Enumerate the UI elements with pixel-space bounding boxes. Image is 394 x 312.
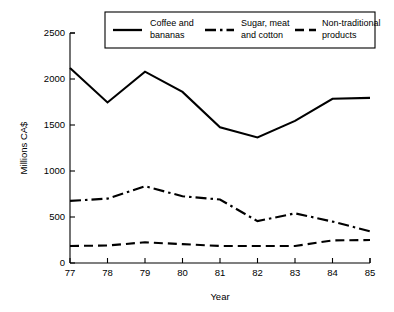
line-chart: 0 500 1000 1500 2000 2500 77 78 79 80 81… [0, 0, 394, 312]
x-tick-label-77: 77 [65, 267, 76, 278]
chart-figure: 0 500 1000 1500 2000 2500 77 78 79 80 81… [0, 0, 394, 312]
y-tick-labels: 0 500 1000 1500 2000 2500 [44, 27, 65, 268]
series-line-non-traditional-products [70, 240, 370, 246]
legend-label-coffee-and-bananas-line1: Coffee and [150, 18, 194, 28]
legend: Coffee and bananas Sugar, meat and cotto… [105, 12, 381, 48]
x-axis-title: Year [210, 291, 229, 302]
x-tick-label-84: 84 [327, 267, 338, 278]
x-tick-label-82: 82 [252, 267, 263, 278]
series-line-coffee-and-bananas [70, 68, 370, 137]
legend-label-sugar-meat-and-cotton-line1: Sugar, meat [241, 18, 290, 28]
legend-label-sugar-meat-and-cotton-line2: and cotton [241, 30, 283, 40]
y-tick-label-2500: 2500 [44, 27, 65, 38]
y-tick-label-1000: 1000 [44, 165, 65, 176]
axes-group [70, 33, 370, 263]
series-line-sugar-meat-and-cotton [70, 186, 370, 231]
x-tick-labels: 77 78 79 80 81 82 83 84 85 [65, 267, 376, 278]
x-tick-label-81: 81 [215, 267, 226, 278]
x-tick-label-79: 79 [140, 267, 151, 278]
legend-label-non-traditional-products-line1: Non-traditional [322, 18, 381, 28]
legend-label-coffee-and-bananas-line2: bananas [150, 30, 185, 40]
x-tick-label-78: 78 [102, 267, 113, 278]
x-tick-label-83: 83 [290, 267, 301, 278]
x-tick-label-85: 85 [365, 267, 376, 278]
legend-label-non-traditional-products-line2: products [322, 30, 357, 40]
y-axis-title: Millions CA$ [18, 121, 29, 175]
x-tick-label-80: 80 [177, 267, 188, 278]
y-tick-label-500: 500 [49, 211, 65, 222]
y-tick-label-1500: 1500 [44, 119, 65, 130]
y-tick-label-2000: 2000 [44, 73, 65, 84]
series-group [70, 68, 370, 246]
x-tick-marks [70, 258, 370, 263]
